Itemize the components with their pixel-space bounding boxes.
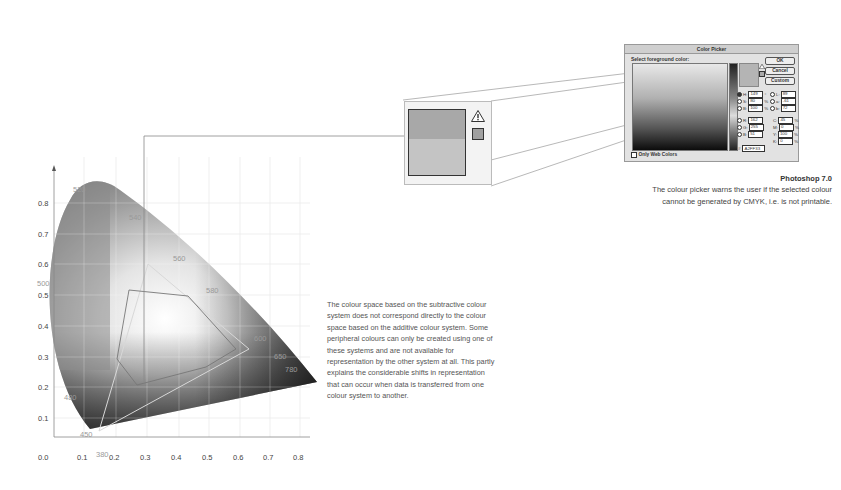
x-tick: 0.1 bbox=[77, 453, 87, 462]
unit: % bbox=[794, 118, 798, 123]
brightness-row[interactable]: B:100% bbox=[737, 105, 768, 112]
field-label: Y: bbox=[773, 132, 777, 137]
wavelength-label: 520 bbox=[73, 185, 86, 194]
blue-radio[interactable] bbox=[737, 132, 742, 137]
hex-label: # bbox=[738, 146, 740, 151]
only-web-colors-checkbox[interactable]: Only Web Colors bbox=[631, 152, 677, 158]
magenta-row[interactable]: M:0% bbox=[773, 124, 799, 131]
x-tick: 0.4 bbox=[171, 453, 181, 462]
window-title: Color Picker bbox=[625, 45, 798, 54]
color-preview bbox=[739, 63, 759, 87]
lab-b-radio[interactable] bbox=[770, 106, 775, 111]
wavelength-label: 580 bbox=[206, 286, 219, 295]
picker-label: Select foreground color: bbox=[631, 56, 689, 62]
hex-input[interactable]: A2FF33 bbox=[742, 145, 765, 152]
wavelength-label: 600 bbox=[254, 334, 267, 343]
blue-row[interactable]: B:51 bbox=[737, 131, 763, 138]
wavelength-label: 560 bbox=[173, 254, 186, 263]
x-tick: 0.5 bbox=[202, 453, 212, 462]
lab-a-input[interactable]: -61 bbox=[781, 98, 796, 105]
yellow-input[interactable]: 100 bbox=[778, 131, 793, 138]
y-axis-arrow-icon bbox=[52, 165, 56, 171]
unit: % bbox=[794, 139, 798, 144]
lab-l-input[interactable]: 89 bbox=[781, 91, 796, 98]
field-label: b: bbox=[776, 106, 780, 111]
brightness-radio[interactable] bbox=[737, 106, 742, 111]
color-swatch bbox=[408, 109, 466, 176]
black-input[interactable]: 0 bbox=[778, 138, 793, 145]
field-label: H: bbox=[743, 92, 747, 97]
wavelength-label: 480 bbox=[64, 393, 77, 402]
y-tick: 0.4 bbox=[38, 322, 48, 331]
magenta-input[interactable]: 0 bbox=[779, 124, 794, 131]
unit: % bbox=[794, 132, 798, 137]
unit: % bbox=[764, 106, 768, 111]
description-text: The colour space based on the subtractiv… bbox=[327, 299, 497, 402]
green-input[interactable]: 255 bbox=[749, 124, 764, 131]
field-label: R: bbox=[743, 118, 747, 123]
wavelength-label: 450 bbox=[80, 430, 93, 439]
y-tick: 0.7 bbox=[38, 230, 48, 239]
green-row[interactable]: G:255 bbox=[737, 124, 764, 131]
hue-radio[interactable] bbox=[737, 92, 742, 97]
color-picker-dialog: Color Picker Select foreground color: OK… bbox=[624, 44, 799, 162]
cyan-input[interactable]: 45 bbox=[778, 117, 793, 124]
wavelength-label: 650 bbox=[274, 352, 287, 361]
field-label: S: bbox=[743, 99, 747, 104]
yellow-row[interactable]: Y:100% bbox=[773, 131, 798, 138]
lab-l-row[interactable]: L:89 bbox=[770, 91, 796, 98]
y-tick: 0.2 bbox=[38, 383, 48, 392]
ok-button[interactable]: OK bbox=[765, 57, 795, 65]
red-radio[interactable] bbox=[737, 118, 742, 123]
hex-row[interactable]: #A2FF33 bbox=[738, 145, 765, 152]
x-tick: 0.2 bbox=[109, 453, 119, 462]
field-label: K: bbox=[773, 139, 777, 144]
y-tick: 0.8 bbox=[38, 199, 48, 208]
unit: % bbox=[764, 99, 768, 104]
hue-input[interactable]: 149 bbox=[748, 91, 763, 98]
lab-b-input[interactable]: 72 bbox=[781, 105, 796, 112]
caption-title: Photoshop 7.0 bbox=[650, 173, 832, 184]
cyan-row[interactable]: C:45% bbox=[773, 117, 798, 124]
checkbox-icon[interactable] bbox=[631, 152, 637, 158]
wavelength-label: 380 bbox=[96, 450, 109, 459]
saturation-input[interactable]: 80 bbox=[748, 98, 763, 105]
out-of-gamut-swatch bbox=[472, 128, 484, 140]
color-field[interactable] bbox=[632, 63, 728, 151]
figure-caption: Photoshop 7.0 The colour picker warns th… bbox=[650, 173, 832, 207]
y-tick: 0.5 bbox=[38, 291, 48, 300]
red-input[interactable]: 162 bbox=[748, 117, 763, 124]
gamut-warning-zoom bbox=[404, 101, 492, 185]
custom-button[interactable]: Custom bbox=[765, 77, 795, 85]
brightness-input[interactable]: 100 bbox=[748, 105, 763, 112]
black-row[interactable]: K:0% bbox=[773, 138, 798, 145]
unit: ° bbox=[764, 92, 766, 97]
y-tick: 0.3 bbox=[38, 353, 48, 362]
cancel-button[interactable]: Cancel bbox=[765, 67, 795, 75]
checkbox-label: Only Web Colors bbox=[639, 152, 678, 157]
warning-triangle-icon bbox=[471, 110, 485, 122]
red-row[interactable]: R:162 bbox=[737, 117, 763, 124]
hue-row[interactable]: H:149° bbox=[737, 91, 766, 98]
y-tick: 0.1 bbox=[38, 414, 48, 423]
lab-a-row[interactable]: a:-61 bbox=[770, 98, 796, 105]
field-label: B: bbox=[743, 106, 747, 111]
x-tick: 0.6 bbox=[233, 453, 243, 462]
field-label: C: bbox=[773, 118, 777, 123]
x-tick: 0.7 bbox=[263, 453, 273, 462]
lab-a-radio[interactable] bbox=[770, 99, 775, 104]
green-radio[interactable] bbox=[737, 125, 742, 130]
field-label: G: bbox=[743, 125, 748, 130]
wavelength-label: 500 bbox=[37, 279, 50, 288]
caption-text: The colour picker warns the user if the … bbox=[650, 184, 832, 207]
saturation-row[interactable]: S:80% bbox=[737, 98, 768, 105]
wavelength-label: 540 bbox=[129, 213, 142, 222]
wavelength-label: 780 bbox=[285, 365, 298, 374]
field-label: L: bbox=[776, 92, 780, 97]
lab-l-radio[interactable] bbox=[770, 92, 775, 97]
field-label: B: bbox=[743, 132, 747, 137]
blue-input[interactable]: 51 bbox=[748, 131, 763, 138]
saturation-radio[interactable] bbox=[737, 99, 742, 104]
unit: % bbox=[795, 125, 799, 130]
lab-b-row[interactable]: b:72 bbox=[770, 105, 796, 112]
